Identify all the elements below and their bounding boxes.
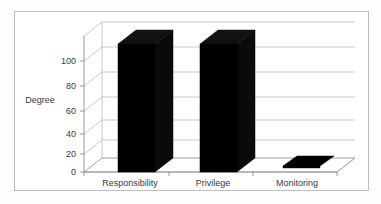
bar-responsibility-side <box>155 30 173 172</box>
chart-plot-area: 0 20 40 60 80 100 Degree Responsibility … <box>0 0 381 204</box>
depth-line-40 <box>84 120 102 134</box>
bar-privilege[interactable] <box>200 30 255 172</box>
depth-line-20 <box>84 140 102 154</box>
y-tick-label-100: 100 <box>61 56 76 66</box>
y-tick-label-0: 0 <box>71 167 76 177</box>
y-tick-label-60: 60 <box>66 106 76 116</box>
bar-responsibility-front <box>118 44 155 172</box>
x-tick-marks <box>84 172 337 176</box>
bar-privilege-side <box>237 30 255 172</box>
depth-line-100 <box>84 47 102 61</box>
bar-privilege-front <box>200 44 237 172</box>
y-tick-label-80: 80 <box>66 81 76 91</box>
bar-monitoring-front <box>283 166 320 168</box>
y-axis-title: Degree <box>25 95 55 105</box>
depth-connectors <box>84 22 102 172</box>
chart-container: 0 20 40 60 80 100 Degree Responsibility … <box>0 0 381 204</box>
x-category-label-privilege: Privilege <box>196 178 231 188</box>
depth-line-60 <box>84 97 102 111</box>
depth-line-80 <box>84 72 102 86</box>
depth-line-120 <box>84 22 102 36</box>
y-tick-marks <box>80 61 84 172</box>
y-tick-label-40: 40 <box>66 129 76 139</box>
y-tick-label-20: 20 <box>66 149 76 159</box>
bar-responsibility[interactable] <box>118 30 173 172</box>
x-category-label-monitoring: Monitoring <box>276 178 318 188</box>
x-category-label-responsibility: Responsibility <box>102 178 158 188</box>
